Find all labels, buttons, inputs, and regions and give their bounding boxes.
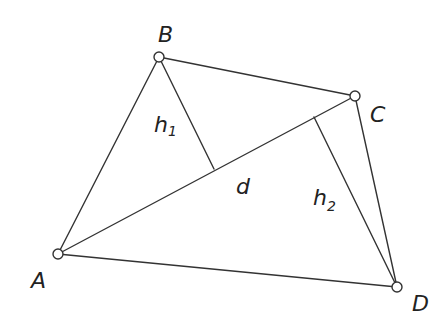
edge-bc [159,57,355,96]
label-a: A [29,268,46,293]
label-h1-sub: 1 [168,123,177,139]
label-b: B [158,22,173,47]
label-d: D [412,291,429,316]
label-h1-base: h [154,112,168,137]
vertex-b [154,52,164,62]
quadrilateral-diagram: A B C D d h1 h2 [0,0,442,332]
label-c: C [370,102,386,127]
label-h2-sub: 2 [327,198,336,214]
edge-ab [58,57,159,254]
vertex-c [350,91,360,101]
vertex-d [392,282,402,292]
label-h2-base: h [313,185,327,210]
label-h1: h1 [154,112,177,139]
vertex-a [53,249,63,259]
label-h2: h2 [313,185,336,214]
diagonal-d [58,96,355,254]
label-d-diagonal: d [236,174,251,199]
edge-da [58,254,397,287]
